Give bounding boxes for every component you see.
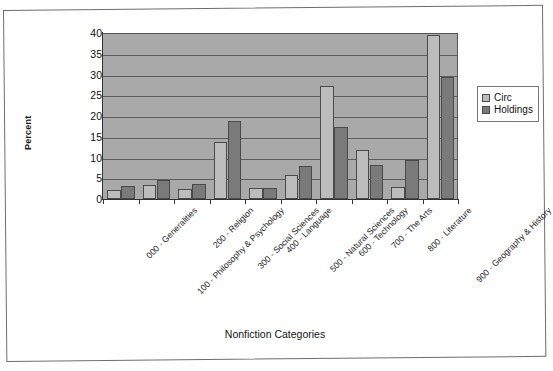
x-axis-tick-mark <box>458 200 459 204</box>
x-axis-category-label: 500 - Natural Sciences <box>328 206 396 274</box>
gridline <box>103 138 457 139</box>
y-axis-line <box>102 32 103 200</box>
gridline <box>103 96 457 97</box>
bar-holdings-8 <box>405 160 419 199</box>
bar-circ-2 <box>178 189 192 199</box>
gridline <box>103 55 457 56</box>
x-axis-tick-mark <box>174 200 175 204</box>
bar-circ-8 <box>391 187 405 199</box>
x-axis-title: Nonfiction Categories <box>0 328 550 340</box>
y-axis-tick-label: 40 <box>76 28 102 38</box>
x-axis-category-label: 900 - Geography & History <box>474 206 552 284</box>
bar-circ-4 <box>249 188 263 199</box>
legend-item-label: Holdings <box>494 105 533 115</box>
y-axis-tick-label: 35 <box>76 49 102 59</box>
bar-circ-3 <box>214 142 228 199</box>
x-axis-tick-mark <box>139 200 140 204</box>
bar-circ-7 <box>356 150 370 199</box>
gridline <box>103 76 457 77</box>
bar-holdings-6 <box>334 127 348 199</box>
y-axis-tick-label: 30 <box>76 70 102 80</box>
bar-holdings-9 <box>441 77 455 199</box>
bar-circ-0 <box>107 190 121 199</box>
legend-item-holdings: Holdings <box>482 105 533 115</box>
square-swatch-light-icon <box>482 94 490 102</box>
x-axis-tick-mark <box>316 200 317 204</box>
y-axis-tick-label: 20 <box>76 111 102 121</box>
bar-circ-1 <box>143 185 157 199</box>
bar-holdings-3 <box>228 121 242 199</box>
legend-item-circ: Circ <box>482 93 533 103</box>
y-axis-tick-labels: 4035302520151050 <box>72 0 102 371</box>
x-axis-category-label: 300 - Social Sciences <box>256 206 321 271</box>
y-axis-tick-label: 5 <box>76 173 102 183</box>
bar-holdings-0 <box>121 186 135 199</box>
square-swatch-dark-icon <box>482 106 490 114</box>
x-axis-tick-mark <box>245 200 246 204</box>
y-axis-tick-label: 25 <box>76 90 102 100</box>
y-axis-title-label: Percent <box>23 70 33 150</box>
bar-holdings-7 <box>370 165 384 199</box>
chart-legend: CircHoldings <box>477 86 539 122</box>
plot-area <box>103 33 458 199</box>
y-axis-tick-label: 10 <box>76 153 102 163</box>
bar-holdings-5 <box>299 166 313 199</box>
bar-holdings-1 <box>157 180 171 199</box>
y-axis-title: Percent <box>13 12 23 92</box>
x-axis-tick-mark <box>387 200 388 204</box>
bar-circ-6 <box>320 86 334 199</box>
x-axis-category-label: 000 - Generalities <box>145 206 199 260</box>
x-axis-tick-mark <box>281 200 282 204</box>
gridline <box>103 159 457 160</box>
bar-circ-5 <box>285 175 299 199</box>
x-axis-tick-mark <box>352 200 353 204</box>
y-axis-tick-label: 0 <box>76 194 102 204</box>
x-axis-tick-mark <box>103 200 104 204</box>
gridline <box>103 117 457 118</box>
bar-holdings-2 <box>192 184 206 199</box>
legend-item-label: Circ <box>494 93 512 103</box>
bar-circ-9 <box>427 35 441 199</box>
x-axis-tick-mark <box>210 200 211 204</box>
y-axis-tick-label: 15 <box>76 132 102 142</box>
bar-holdings-4 <box>263 188 277 199</box>
x-axis-tick-mark <box>423 200 424 204</box>
